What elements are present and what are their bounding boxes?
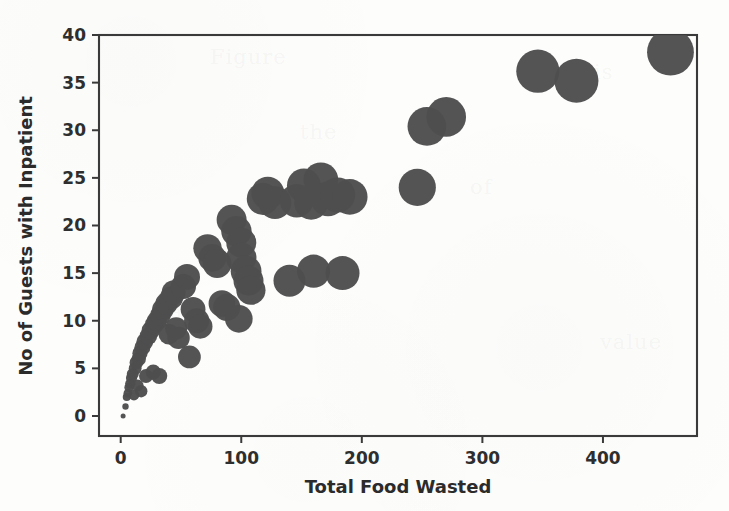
y-tick-label: 5 <box>74 358 86 378</box>
data-point-bubble <box>236 276 265 305</box>
data-point-bubble <box>297 255 330 288</box>
data-point-bubble <box>516 50 559 93</box>
x-tick-label: 300 <box>465 448 501 468</box>
data-point-bubble <box>647 29 694 76</box>
data-point-bubble <box>399 169 436 206</box>
y-tick-label: 0 <box>74 406 86 426</box>
data-point-bubble <box>122 403 128 409</box>
x-tick-label: 100 <box>224 448 260 468</box>
x-tick-label: 0 <box>115 448 127 468</box>
data-point-bubble <box>174 264 200 290</box>
data-point-bubble <box>188 314 212 338</box>
data-point-bubble <box>225 305 253 333</box>
x-tick-label: 400 <box>585 448 621 468</box>
y-tick-label: 20 <box>62 215 86 235</box>
y-tick-label: 35 <box>62 73 86 93</box>
chart-page: Figuretheanalysisofdatavalue 01002003004… <box>0 0 729 511</box>
x-axis-ticks: 0100200300400 <box>115 436 621 468</box>
plot-frame <box>99 35 697 436</box>
x-tick-label: 200 <box>344 448 380 468</box>
scatter-plot-figure: 0100200300400 0510152025303540 Total Foo… <box>0 0 729 511</box>
x-axis-title: Total Food Wasted <box>305 476 492 497</box>
data-point-bubble <box>167 327 189 349</box>
data-point-bubble <box>426 97 466 137</box>
data-point-bubble <box>121 414 126 419</box>
data-point-bubble <box>554 59 598 103</box>
data-point-bubble <box>151 368 167 384</box>
y-tick-label: 30 <box>62 120 86 140</box>
y-axis-title: No of Guests with Inpatient <box>15 96 36 376</box>
data-point-bubble <box>178 346 201 369</box>
bubble-series <box>121 29 694 419</box>
data-point-bubble <box>135 385 147 397</box>
y-tick-label: 10 <box>62 311 86 331</box>
data-point-bubble <box>332 179 368 215</box>
y-axis-ticks: 0510152025303540 <box>62 25 99 426</box>
data-point-bubble <box>326 256 360 290</box>
y-tick-label: 25 <box>62 168 86 188</box>
y-tick-label: 40 <box>62 25 86 45</box>
y-tick-label: 15 <box>62 263 86 283</box>
